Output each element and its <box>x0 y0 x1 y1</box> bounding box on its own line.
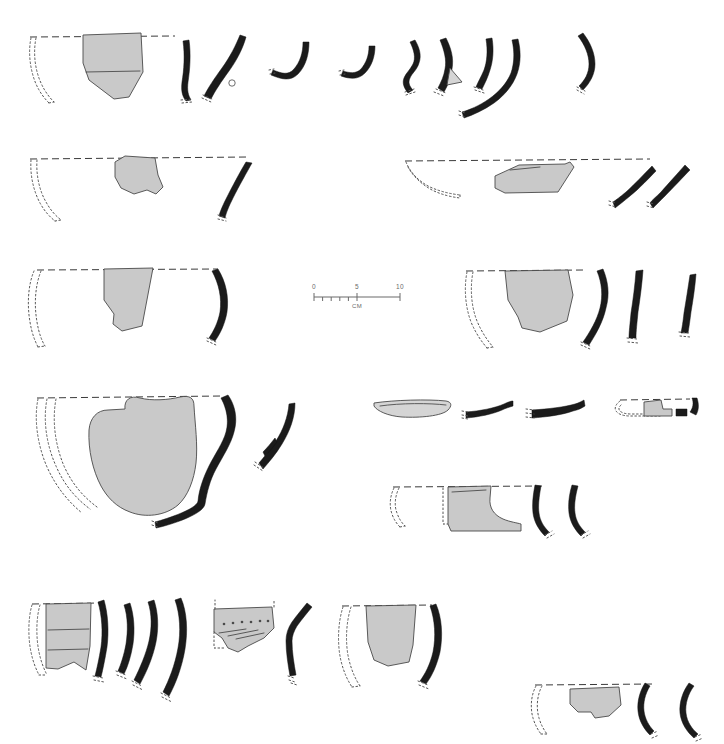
profile-6b <box>638 683 654 735</box>
vessel-1j[interactable] <box>577 33 595 94</box>
reconstruction-foot-4h <box>400 526 405 527</box>
profile-block-4g <box>676 409 687 416</box>
profile-2e <box>650 165 690 208</box>
vessel-3a[interactable] <box>28 268 218 347</box>
profile-2b <box>219 162 252 218</box>
profile-4i <box>533 485 549 536</box>
row-4 <box>36 395 698 538</box>
reconstruction-inner-1a <box>35 38 54 102</box>
vessel-6c[interactable] <box>680 683 703 741</box>
vessel-4j[interactable] <box>569 485 590 538</box>
vessel-4f[interactable] <box>526 400 585 418</box>
scale-bar: 0 5 10 CM <box>312 283 404 309</box>
scale-label-10: 10 <box>396 283 404 290</box>
profile-5d <box>134 600 158 684</box>
profile-3e <box>629 270 643 338</box>
vessel-5f[interactable] <box>214 600 274 652</box>
vessel-1g[interactable] <box>434 38 462 96</box>
profile-1c <box>204 35 246 99</box>
sherd-body-1a <box>83 33 143 99</box>
profile-1b <box>182 40 191 101</box>
scale-unit-label: CM <box>352 303 362 309</box>
reconstruction-foot-5h <box>352 686 360 687</box>
reconstruction-inner-2c <box>408 167 460 198</box>
sherd-body-5a <box>46 603 91 670</box>
pottery-plate: 0 5 10 CM <box>0 0 724 744</box>
reconstruction-box-4h <box>443 488 448 524</box>
sherd-body-2a <box>115 156 163 194</box>
vessel-1f[interactable] <box>403 40 420 95</box>
reconstruction-outer-2c <box>406 162 460 195</box>
vessel-4a[interactable] <box>36 396 222 515</box>
vessel-2a[interactable] <box>30 156 248 221</box>
reconstruction-inner-5a <box>37 605 47 675</box>
vessel-1d[interactable] <box>269 42 309 79</box>
vessel-1h[interactable] <box>474 38 493 93</box>
vessel-1a[interactable] <box>30 33 175 103</box>
reconstruction-outer-5a <box>29 605 39 675</box>
vessel-4h[interactable] <box>390 486 542 531</box>
reconstruction-inner-3c <box>471 272 493 347</box>
row-2 <box>30 156 690 221</box>
sherd-body-2c <box>495 162 574 193</box>
reconstruction-inner-4h <box>395 488 405 526</box>
vessel-5d[interactable] <box>132 600 158 690</box>
vessel-5i[interactable] <box>418 604 442 689</box>
sherd-body-6a <box>570 687 621 718</box>
vessel-4e[interactable] <box>462 401 513 419</box>
row-3 <box>28 268 696 349</box>
vessel-5a[interactable] <box>29 603 100 675</box>
reconstruction-inner-6a <box>537 686 547 734</box>
detail-circle-1c <box>229 80 235 86</box>
profile-2d <box>613 166 656 208</box>
profile-5c <box>118 603 134 674</box>
vessel-2d[interactable] <box>609 166 656 208</box>
reconstruction-outer-2a <box>31 160 55 221</box>
vessel-5b[interactable] <box>93 600 108 682</box>
vessel-5g[interactable] <box>286 603 312 685</box>
profile-4e <box>466 401 513 418</box>
vessel-1e[interactable] <box>339 46 375 78</box>
profile-1h <box>476 38 493 89</box>
vessel-3e[interactable] <box>627 270 643 343</box>
profile-hook-4g <box>690 398 698 415</box>
vessel-4i[interactable] <box>533 485 554 538</box>
vessel-3f[interactable] <box>679 274 696 337</box>
vessel-5e[interactable] <box>161 598 187 702</box>
vessel-1b[interactable] <box>181 40 192 103</box>
vessel-3c[interactable] <box>465 270 584 348</box>
lug-1g <box>447 68 462 85</box>
vessel-6a[interactable] <box>531 684 654 734</box>
sherd-body-4h <box>448 486 521 531</box>
vessel-6b[interactable] <box>638 683 659 738</box>
profile-5e <box>163 598 187 696</box>
profile-5i <box>420 604 442 684</box>
vessel-4c[interactable] <box>254 403 295 471</box>
profile-5g <box>286 603 312 676</box>
scale-minor-ticks <box>323 297 349 301</box>
reconstruction-inner-2a <box>37 160 61 220</box>
row-6 <box>531 683 703 741</box>
profile-5b <box>95 600 108 677</box>
sherd-body-4g <box>644 400 672 416</box>
vessel-2b[interactable] <box>218 162 252 221</box>
vessel-3d[interactable] <box>581 269 608 349</box>
profile-3f <box>681 274 696 333</box>
vessel-3b[interactable] <box>207 269 228 345</box>
reconstruction-inner-4a <box>45 399 90 509</box>
reconstruction-5g <box>288 676 297 685</box>
scale-label-0: 0 <box>312 283 316 290</box>
vessel-5h[interactable] <box>339 605 432 687</box>
vessel-2c[interactable] <box>405 159 650 198</box>
vessel-5c[interactable] <box>116 603 134 679</box>
reconstruction-3f <box>679 332 690 337</box>
vessel-4d[interactable] <box>374 400 451 417</box>
vessel-4g[interactable] <box>615 398 698 416</box>
sherd-body-4d <box>374 400 451 417</box>
rim-line-4g <box>620 399 690 400</box>
vessel-1c[interactable] <box>202 35 246 102</box>
rim-line-4a <box>37 396 222 398</box>
profile-4f <box>532 400 585 418</box>
profile-3d <box>583 269 608 345</box>
scale-label-5: 5 <box>355 283 359 290</box>
